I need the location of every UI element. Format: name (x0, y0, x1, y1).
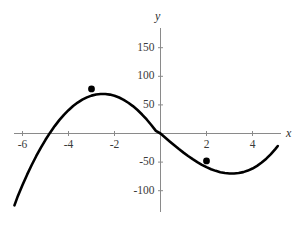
y-tick-label: 100 (109, 70, 155, 82)
y-tick-label: 50 (109, 99, 155, 111)
y-tick-label: -50 (109, 156, 155, 168)
cubic-function-plot: -6-4-224 15010050-50-100 x y (0, 0, 306, 228)
x-tick-label: 2 (197, 139, 217, 151)
x-tick-label: -6 (13, 139, 33, 151)
local-minimum-point (203, 158, 210, 165)
y-tick-label: 150 (109, 42, 155, 54)
x-tick-label: -4 (59, 139, 79, 151)
y-axis-label: y (155, 10, 160, 22)
y-tick-label: -100 (109, 185, 155, 197)
x-tick-label: 4 (243, 139, 263, 151)
x-axis-label: x (286, 127, 291, 139)
x-tick-label: -2 (105, 139, 125, 151)
local-maximum-point (88, 85, 95, 92)
